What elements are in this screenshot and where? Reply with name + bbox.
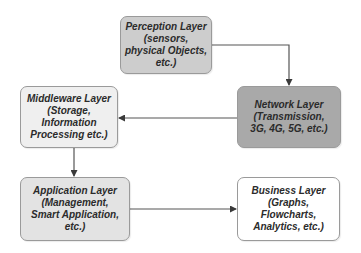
business-layer-line: Analytics, etc.) — [253, 221, 324, 233]
middleware-layer-line: Information — [42, 117, 97, 129]
perception-layer-node: Perception Layer (sensors, physical Obje… — [120, 16, 212, 74]
perception-layer-line: (sensors, — [144, 33, 188, 45]
perception-layer-title: Perception Layer — [125, 21, 206, 33]
business-layer-line: (Graphs, — [268, 197, 309, 209]
perception-layer-line: etc.) — [156, 57, 177, 69]
application-layer-line: Smart Application, — [31, 209, 119, 221]
application-layer-node: Application Layer (Management, Smart App… — [20, 177, 130, 241]
network-layer-node: Network Layer (Transmission, 3G, 4G, 5G,… — [237, 86, 341, 148]
middleware-layer-line: Processing etc.) — [30, 129, 107, 141]
middleware-layer-node: Middleware Layer (Storage, Information P… — [20, 86, 118, 148]
iot-architecture-diagram: Perception Layer (sensors, physical Obje… — [0, 0, 361, 253]
business-layer-node: Business Layer (Graphs, Flowcharts, Anal… — [237, 177, 340, 241]
middleware-layer-title: Middleware Layer — [27, 93, 111, 105]
business-layer-title: Business Layer — [252, 185, 326, 197]
network-layer-line: 3G, 4G, 5G, etc.) — [250, 123, 327, 135]
network-layer-line: (Transmission, — [254, 111, 325, 123]
network-layer-title: Network Layer — [255, 99, 324, 111]
middleware-layer-line: (Storage, — [47, 105, 90, 117]
arrow-perception-to-network — [212, 45, 289, 85]
application-layer-line: (Management, — [41, 197, 108, 209]
perception-layer-line: physical Objects, — [125, 45, 207, 57]
business-layer-line: Flowcharts, — [261, 209, 317, 221]
application-layer-line: etc.) — [65, 221, 86, 233]
application-layer-title: Application Layer — [33, 185, 117, 197]
